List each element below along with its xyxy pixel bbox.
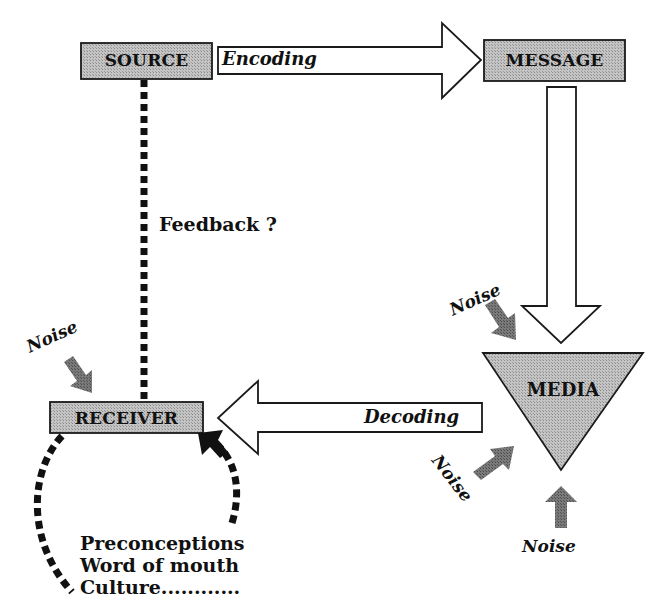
influence-word-of-mouth: Word of mouth — [80, 554, 239, 576]
influence-loop — [37, 436, 72, 592]
media-label: MEDIA — [513, 381, 613, 399]
feedback-label: Feedback ? — [159, 215, 277, 234]
noise-label-media-bottom: Noise — [522, 538, 576, 555]
message-to-media-arrow — [522, 87, 600, 343]
communication-diagram: SOURCE MESSAGE MEDIA RECEIVER Encoding D… — [0, 0, 662, 612]
message-label: MESSAGE — [484, 52, 625, 69]
noise-arrow-receiver — [64, 356, 92, 393]
influence-culture: Culture............ — [80, 576, 240, 598]
encoding-label: Encoding — [222, 50, 317, 68]
noise-arrow-media-left — [473, 446, 514, 480]
noise-arrow-media-bottom — [545, 486, 577, 528]
noise-arrow-media-top — [485, 299, 516, 340]
source-label: SOURCE — [81, 52, 212, 69]
influence-arrowhead — [198, 430, 228, 458]
receiver-label: RECEIVER — [50, 410, 203, 427]
influence-preconceptions: Preconceptions — [80, 532, 245, 554]
decoding-label: Decoding — [364, 408, 459, 426]
